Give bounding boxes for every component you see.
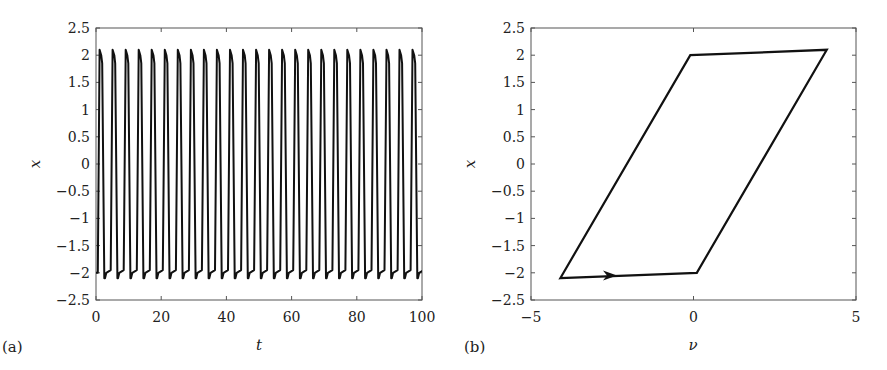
oscillation-curve (96, 50, 437, 278)
a-ytick-label: −1 (69, 210, 90, 226)
b-ytick-label: 2.5 (503, 20, 525, 36)
b-ytick-label: −2.5 (491, 292, 525, 308)
b-ytick-label: 0 (516, 156, 525, 172)
a-xtick-label: 20 (152, 309, 170, 325)
b-ytick-label: −0.5 (491, 183, 525, 199)
x-axis-label-a: t (256, 336, 263, 354)
b-xtick-label: 5 (852, 309, 861, 325)
a-ytick-label: −1.5 (56, 238, 90, 254)
panel-label-b: (b) (464, 338, 485, 356)
panel-label-a: (a) (2, 338, 23, 356)
y-axis-label-a: x (26, 159, 44, 168)
a-xtick-label: 0 (92, 309, 101, 325)
plot-frame-b (531, 28, 856, 300)
b-ytick-label: −1 (504, 210, 525, 226)
b-ytick-label: 1 (516, 102, 525, 118)
b-ytick-label: −2 (504, 265, 525, 281)
a-ytick-label: −2.5 (56, 292, 90, 308)
a-ytick-label: −2 (69, 265, 90, 281)
b-xtick-label: −5 (521, 309, 542, 325)
a-ytick-label: 1 (81, 102, 90, 118)
ticks-b (531, 28, 856, 300)
figure: 2.521.510.50−0.5−1−1.5−2−2.5020406080100… (0, 0, 887, 370)
limit-cycle-curve (560, 50, 827, 278)
a-ytick-label: 1.5 (68, 74, 90, 90)
tick-labels-b: 2.521.510.50−0.5−1−1.5−2−2.5−505 (491, 20, 860, 325)
b-ytick-label: 2 (516, 47, 525, 63)
y-axis-label-b: x (461, 159, 479, 168)
a-ytick-label: −0.5 (56, 183, 90, 199)
b-ytick-label: 1.5 (503, 74, 525, 90)
b-ytick-label: 0.5 (503, 129, 525, 145)
a-xtick-label: 40 (217, 309, 235, 325)
a-xtick-label: 60 (283, 309, 301, 325)
a-xtick-label: 80 (348, 309, 366, 325)
x-axis-label-b: ν (688, 336, 697, 354)
panel-b-phase-portrait: 2.521.510.50−0.5−1−1.5−2−2.5−505 ν x (b) (461, 20, 860, 356)
a-ytick-label: 2.5 (68, 20, 90, 36)
a-ytick-label: 0.5 (68, 129, 90, 145)
panel-a-time-series: 2.521.510.50−0.5−1−1.5−2−2.5020406080100… (2, 20, 437, 356)
b-xtick-label: 0 (689, 309, 698, 325)
a-ytick-label: 0 (81, 156, 90, 172)
a-xtick-label: 100 (409, 309, 436, 325)
b-ytick-label: −1.5 (491, 238, 525, 254)
a-ytick-label: 2 (81, 47, 90, 63)
